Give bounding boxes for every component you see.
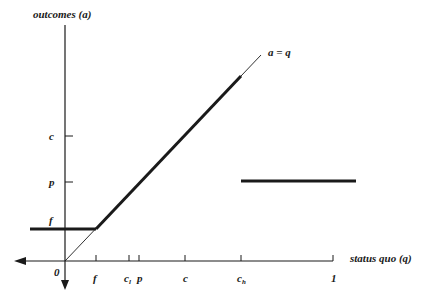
x-axis-arrow-left-icon: [14, 257, 26, 265]
x-tick-label-cl: cl: [124, 272, 131, 286]
x-ticks: [96, 255, 333, 261]
x-tick-label-p: p: [136, 272, 143, 284]
y-ticks: [65, 136, 73, 182]
x-tick-label-c: c: [183, 272, 188, 284]
diagonal-label: a = q: [268, 46, 291, 58]
y-axis-label: outcomes (a): [33, 8, 91, 21]
y-tick-label-p: p: [48, 176, 55, 188]
x-tick-label-ch: ch: [237, 272, 246, 286]
thick-diagonal-segment: [96, 76, 241, 229]
x-axis-label: status quo (q): [349, 252, 412, 265]
x-tick-label-f: f: [93, 272, 98, 284]
origin-label: 0: [54, 266, 60, 278]
y-axis-arrow-down-icon: [61, 280, 69, 290]
x-tick-label-1: 1: [331, 272, 337, 284]
y-tick-label-c: c: [49, 130, 54, 142]
policy-outcome-diagram: outcomes (a) status quo (q) a = q 0 f cl…: [0, 0, 424, 297]
y-tick-label-f: f: [49, 214, 54, 226]
